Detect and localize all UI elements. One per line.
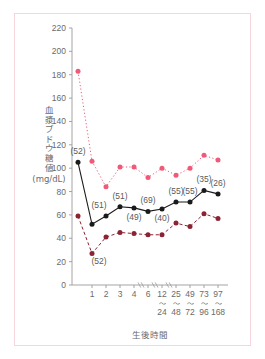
x-tick-label: 97	[213, 289, 223, 299]
data-point-annotation: (35)	[196, 174, 211, 184]
y-tick-label: 200	[52, 46, 66, 56]
chart-figure: 020406080100120140160180200220 123461225…	[0, 0, 265, 359]
y-tick-label: 100	[52, 163, 66, 173]
y-tick-label: 80	[57, 187, 67, 197]
y-axis-title-char: 血	[45, 105, 54, 115]
data-point-annotation: (69)	[140, 195, 155, 205]
data-point	[90, 159, 95, 164]
x-tick-label: 1	[90, 289, 95, 299]
x-tick-label: 6	[146, 289, 151, 299]
y-axis-title-char: 糖	[45, 153, 54, 163]
y-axis-title-char: 漿	[45, 115, 54, 125]
x-tick-label: 12	[157, 289, 167, 299]
y-axis-title-char: ド	[45, 134, 54, 144]
data-point	[146, 209, 151, 214]
x-tick-range-tilde: ～	[215, 300, 222, 307]
data-point	[90, 251, 95, 256]
data-point-annotation: (55)	[182, 186, 197, 196]
data-point-annotation: (26)	[210, 178, 225, 188]
x-tick-labels: 123461225497397	[90, 289, 223, 299]
x-tick-sublabel: 96	[199, 307, 209, 317]
data-point	[104, 184, 109, 189]
data-point-annotation: (51)	[91, 200, 106, 210]
data-point	[132, 231, 137, 236]
x-tick-range-tilde: ～	[201, 300, 208, 307]
plot-canvas: 020406080100120140160180200220 123461225…	[0, 0, 265, 359]
data-point	[202, 153, 207, 158]
data-point-annotation: (52)	[91, 256, 106, 266]
y-axis-title-char: ブ	[45, 124, 54, 134]
data-point	[174, 200, 179, 205]
x-tick-sublabels: ～24～48～72～96～168	[157, 300, 225, 317]
x-tick-label: 4	[132, 289, 137, 299]
data-point	[202, 188, 207, 193]
x-tick-label: 49	[185, 289, 195, 299]
y-axis-title-char: ウ	[45, 143, 54, 153]
data-point	[118, 165, 123, 170]
data-point	[132, 165, 137, 170]
x-tick-range-tilde: ～	[173, 300, 180, 307]
y-tick-label: 20	[57, 257, 67, 267]
y-axis-title: 血漿ブドウ糖値	[45, 105, 54, 173]
data-point	[188, 166, 193, 171]
y-axis-unit-label: (mg/dL)	[32, 174, 65, 184]
data-point	[118, 204, 123, 209]
x-tick-marks	[92, 285, 218, 288]
data-point	[188, 200, 193, 205]
data-point	[104, 235, 109, 240]
data-point	[216, 191, 221, 196]
y-tick-label: 220	[52, 23, 66, 33]
y-tick-label: 40	[57, 233, 67, 243]
data-point	[160, 207, 165, 212]
data-point-annotation: (49)	[126, 212, 141, 222]
series-median	[76, 160, 221, 227]
data-point	[104, 214, 109, 219]
data-point	[174, 221, 179, 226]
data-point	[118, 230, 123, 235]
data-point	[76, 160, 81, 165]
data-point	[76, 214, 81, 219]
data-point	[90, 222, 95, 227]
data-point	[160, 166, 165, 171]
series-line-upper-percentile	[78, 71, 218, 187]
data-point-annotation: (40)	[154, 213, 169, 223]
y-tick-label: 120	[52, 140, 66, 150]
x-tick-sublabel: 72	[185, 307, 195, 317]
x-tick-range-tilde: ～	[159, 300, 166, 307]
data-point-annotation: (52)	[70, 146, 85, 156]
data-point	[146, 175, 151, 180]
series-upper-percentile	[76, 69, 221, 190]
y-tick-label: 140	[52, 116, 66, 126]
y-axis-title-char: 値	[45, 163, 54, 173]
x-tick-sublabel: 48	[171, 307, 181, 317]
data-point	[188, 224, 193, 229]
x-tick-range-tilde: ～	[187, 300, 194, 307]
x-tick-label: 2	[104, 289, 109, 299]
data-point	[146, 232, 151, 237]
data-point	[132, 205, 137, 210]
y-tick-label: 0	[61, 280, 66, 290]
data-point-annotation: (55)	[168, 186, 183, 196]
y-tick-label: 180	[52, 70, 66, 80]
x-tick-label: 25	[171, 289, 181, 299]
data-point	[216, 216, 221, 221]
y-tick-labels: 020406080100120140160180200220	[52, 23, 66, 290]
y-tick-label: 160	[52, 93, 66, 103]
data-series-group	[76, 69, 221, 256]
data-point	[202, 211, 207, 216]
series-lower-percentile	[76, 211, 221, 256]
data-point	[76, 69, 81, 74]
data-point	[160, 232, 165, 237]
y-tick-label: 60	[57, 210, 67, 220]
data-point-annotation: (51)	[112, 191, 127, 201]
x-tick-label: 3	[118, 289, 123, 299]
x-tick-label: 73	[199, 289, 209, 299]
x-axis-title: 生後時間	[132, 330, 168, 340]
x-tick-sublabel: 168	[211, 307, 225, 317]
x-tick-sublabel: 24	[157, 307, 167, 317]
data-point	[216, 158, 221, 163]
data-point	[174, 173, 179, 178]
